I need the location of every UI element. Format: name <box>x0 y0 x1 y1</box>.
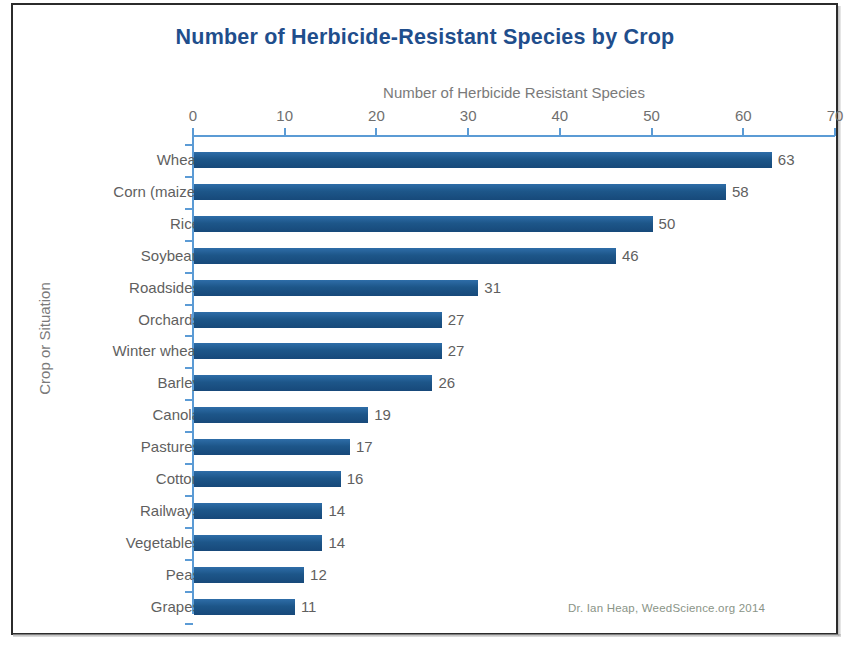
bar-row: Cotton16 <box>0 471 850 487</box>
bar-row: Rice50 <box>0 216 850 232</box>
bar <box>194 280 478 296</box>
bar <box>194 439 350 455</box>
bar-row: Orchards27 <box>0 312 850 328</box>
category-label: Orchards <box>138 312 200 328</box>
bar-row: Soybean46 <box>0 248 850 264</box>
category-label: Canola <box>152 407 200 423</box>
bar <box>194 184 726 200</box>
bar-row: Peas12 <box>0 567 850 583</box>
bar-row: Barley26 <box>0 375 850 391</box>
bar <box>194 503 322 519</box>
bar-value-label: 19 <box>374 406 391 424</box>
bar-row: Canola19 <box>0 407 850 423</box>
bar-value-label: 17 <box>356 438 373 456</box>
category-label: Grapes <box>151 599 200 615</box>
bar <box>194 407 368 423</box>
bar <box>194 248 616 264</box>
bar-value-label: 14 <box>328 502 345 520</box>
bar <box>194 216 653 232</box>
bar-row: Corn (maize)58 <box>0 184 850 200</box>
category-label: Winter wheat <box>112 343 200 359</box>
bar-value-label: 58 <box>732 183 749 201</box>
bar-value-label: 12 <box>310 566 327 584</box>
bar <box>194 312 442 328</box>
bar <box>194 471 341 487</box>
bar-value-label: 50 <box>659 215 676 233</box>
bar <box>194 535 322 551</box>
bar <box>194 567 304 583</box>
bar-value-label: 46 <box>622 247 639 265</box>
bar-value-label: 63 <box>778 151 795 169</box>
bar-value-label: 27 <box>448 311 465 329</box>
category-label: Railways <box>140 503 200 519</box>
credit-attribution: Dr. Ian Heap, WeedScience.org 2014 <box>568 602 765 614</box>
bar-row: Roadsides31 <box>0 280 850 296</box>
bar-row: Pastures17 <box>0 439 850 455</box>
category-label: Vegetables <box>126 535 200 551</box>
bar-value-label: 26 <box>438 374 455 392</box>
chart-page: Number of Herbicide-Resistant Species by… <box>0 0 850 647</box>
bar-value-label: 14 <box>328 534 345 552</box>
bar-row: Winter wheat27 <box>0 343 850 359</box>
bar-row: Railways14 <box>0 503 850 519</box>
bar-value-label: 27 <box>448 342 465 360</box>
bar-value-label: 11 <box>301 598 317 616</box>
bar <box>194 375 432 391</box>
category-label: Corn (maize) <box>113 184 200 200</box>
bar <box>194 343 442 359</box>
bar <box>194 152 772 168</box>
category-label: Roadsides <box>129 280 200 296</box>
bar-row: Vegetables14 <box>0 535 850 551</box>
category-label: Soybean <box>141 248 200 264</box>
category-label: Pastures <box>141 439 200 455</box>
bar-row: Wheat63 <box>0 152 850 168</box>
bar-value-label: 31 <box>484 279 501 297</box>
bar-plot-area: Wheat63Corn (maize)58Rice50Soybean46Road… <box>0 0 850 647</box>
bar-value-label: 16 <box>347 470 364 488</box>
bar <box>194 599 295 615</box>
